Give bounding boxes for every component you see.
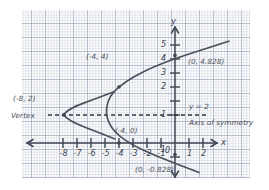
parabola-graph-figure: -8 -7 -6 -5 -4 -3 -2 -1 1 2 5 4 3 2 1 -1… bbox=[0, 0, 269, 190]
plot-drawing bbox=[0, 0, 269, 190]
symmetry-name-label: Axis of symmetry bbox=[189, 119, 253, 126]
point-label-0-4828: (0, 4.828) bbox=[188, 58, 224, 65]
x-axis-label: x bbox=[221, 138, 226, 147]
x-tick-label--8: -8 bbox=[57, 150, 70, 158]
y-tick-label-5: 5 bbox=[158, 41, 169, 49]
point-minus4-4 bbox=[117, 85, 121, 89]
y-tick-label-4: 4 bbox=[158, 55, 169, 63]
x-tick-label--5: -5 bbox=[99, 150, 112, 158]
x-tick-label--7: -7 bbox=[71, 150, 84, 158]
symmetry-equation-label: y = 2 bbox=[189, 103, 209, 110]
y-tick-label-2: 2 bbox=[158, 83, 169, 91]
x-tick-label--2: -2 bbox=[141, 150, 154, 158]
point-y-intercept-low bbox=[173, 153, 177, 157]
point-y-intercept-up bbox=[173, 54, 177, 58]
origin-label: 0 bbox=[163, 147, 172, 155]
vertex-word-label: Vertex bbox=[11, 112, 35, 119]
y-tick-label-3: 3 bbox=[158, 69, 169, 77]
x-tick-label--4: -4 bbox=[113, 150, 126, 158]
x-tick-label--6: -6 bbox=[85, 150, 98, 158]
y-tick-label-1: 1 bbox=[158, 111, 169, 119]
x-tick-label-2: 2 bbox=[197, 150, 210, 158]
vertex-coordinate-label: (-8, 2) bbox=[13, 95, 36, 102]
x-tick-label--3: -3 bbox=[127, 150, 140, 158]
point-label--4-4: (-4, 4) bbox=[86, 53, 109, 60]
x-tick-label-1: 1 bbox=[183, 150, 196, 158]
point-label--4-0: (-4, 0) bbox=[115, 127, 138, 134]
point-minus4-0 bbox=[117, 141, 121, 145]
point-vertex bbox=[62, 113, 66, 117]
point-label-0--0828: (0, -0.828) bbox=[135, 166, 174, 173]
y-axis-label: y bbox=[171, 17, 176, 26]
